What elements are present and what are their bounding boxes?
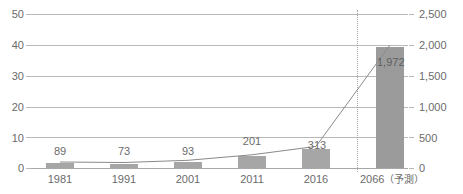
data-label-2066: 1,972 [377,57,405,68]
x-label-2011: 2011 [232,173,272,185]
data-label-1981: 89 [46,146,74,157]
x-label-1981: 1981 [40,173,80,185]
x-label-2066-suffix: （予測） [384,174,424,185]
line-series-layer [0,0,463,194]
x-label-1991: 1991 [104,173,144,185]
x-label-2016: 2016 [296,173,336,185]
data-label-2011: 201 [238,136,266,147]
line-series-path [60,45,390,163]
x-label-2001: 2001 [168,173,208,185]
data-label-1991: 73 [110,146,138,157]
chart-container: 50 40 30 20 10 0 2,500 2,000 1,500 1,000… [0,0,463,194]
x-label-2066: 2066（予測） [360,173,460,186]
data-label-2001: 93 [174,146,202,157]
data-label-2016: 313 [303,140,331,151]
x-label-2066-year: 2066 [360,173,384,185]
